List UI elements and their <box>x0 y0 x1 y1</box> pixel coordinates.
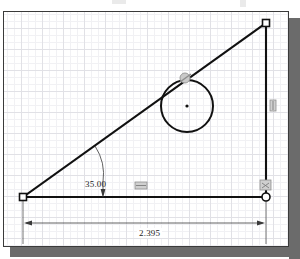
coincident-constraint-icon[interactable] <box>260 180 271 190</box>
dimension-arrow-right <box>257 221 265 226</box>
window-shadow-bottom <box>10 246 300 257</box>
vertical-constraint-icon[interactable] <box>270 100 276 111</box>
angle-arc <box>95 146 104 182</box>
tangent-icon[interactable] <box>180 73 191 83</box>
sketch-canvas[interactable]: 35.00 2.395 <box>3 11 289 247</box>
dimension-arrow-left <box>24 221 32 226</box>
scan-artifact-top-right <box>240 0 246 7</box>
window-shadow-right <box>289 18 300 259</box>
angle-dimension-label[interactable]: 35.00 <box>85 179 106 189</box>
endpoint-top-right <box>263 20 270 27</box>
sketch-viewport: 35.00 2.395 <box>0 0 300 259</box>
length-dimension-label[interactable]: 2.395 <box>137 228 162 238</box>
sketch-geometry <box>4 12 289 247</box>
coincident-point-bottom-right <box>262 193 270 201</box>
circle-center-point <box>185 104 188 107</box>
horizontal-constraint-icon[interactable] <box>135 182 147 189</box>
hypotenuse-line <box>23 23 266 197</box>
origin-point-left <box>20 194 27 201</box>
scan-artifact-top-left <box>112 0 126 4</box>
